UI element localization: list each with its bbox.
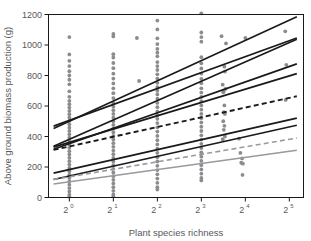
data-point: [135, 36, 139, 40]
data-point: [199, 103, 203, 107]
data-point: [199, 125, 203, 129]
data-point: [67, 159, 71, 163]
data-point: [199, 112, 203, 116]
data-point: [155, 64, 159, 68]
data-point: [155, 36, 159, 40]
data-point: [199, 55, 203, 59]
data-point: [67, 95, 71, 99]
data-point: [67, 89, 71, 93]
data-point: [238, 151, 242, 155]
data-point: [111, 91, 115, 95]
data-point: [111, 152, 115, 156]
x-axis-title: Plant species richness: [129, 227, 224, 238]
data-point: [199, 168, 203, 172]
data-point: [199, 179, 203, 183]
data-point: [67, 186, 71, 190]
data-point: [199, 159, 203, 163]
data-point: [111, 66, 115, 70]
data-point: [67, 78, 71, 82]
y-tick-label: 400: [27, 132, 42, 142]
data-point: [67, 109, 71, 113]
y-tick-label: 1200: [22, 10, 42, 20]
data-point: [111, 182, 115, 186]
x-tick-label: 2: [283, 205, 288, 215]
data-point: [284, 63, 288, 67]
data-point: [111, 178, 115, 182]
x-tick-label: 2: [151, 205, 156, 215]
data-point: [111, 189, 115, 193]
data-point: [221, 137, 225, 141]
data-point: [221, 83, 225, 87]
data-point: [199, 91, 203, 95]
data-point: [67, 190, 71, 194]
data-point: [111, 185, 115, 189]
data-point: [111, 82, 115, 86]
data-point: [199, 133, 203, 137]
data-point: [111, 112, 115, 116]
data-point: [199, 40, 203, 44]
data-point: [67, 74, 71, 78]
data-point: [155, 93, 159, 97]
x-tick-label: 2: [239, 205, 244, 215]
data-point: [221, 119, 225, 123]
data-point: [111, 130, 115, 134]
data-point: [67, 112, 71, 116]
data-point: [155, 188, 159, 192]
data-point: [199, 67, 203, 71]
data-point: [111, 171, 115, 175]
data-point: [199, 35, 203, 39]
data-point: [111, 35, 115, 39]
y-tick-label: 200: [27, 162, 42, 172]
data-point: [111, 56, 115, 60]
data-point: [155, 72, 159, 76]
data-point: [67, 59, 71, 63]
data-point: [67, 183, 71, 187]
data-point: [283, 29, 287, 33]
y-tick-label: 600: [27, 101, 42, 111]
data-point: [241, 162, 245, 166]
chart-figure: 020040060080010001200 202122232425 Plant…: [0, 0, 311, 241]
data-point: [222, 124, 226, 128]
data-point: [155, 19, 159, 23]
data-point: [155, 47, 159, 51]
data-point: [155, 164, 159, 168]
data-point: [220, 34, 224, 38]
data-point: [137, 79, 141, 83]
data-point: [222, 128, 226, 132]
data-point: [111, 123, 115, 127]
data-point: [199, 86, 203, 90]
data-point: [67, 122, 71, 126]
data-point: [155, 130, 159, 134]
data-point: [111, 77, 115, 81]
data-point: [155, 121, 159, 125]
data-point: [155, 172, 159, 176]
x-tick-label: 2: [63, 205, 68, 215]
data-point: [155, 181, 159, 185]
x-tick-label: 2: [107, 205, 112, 215]
data-point: [199, 142, 203, 146]
data-point: [155, 51, 159, 55]
data-point: [111, 86, 115, 90]
data-point: [199, 121, 203, 125]
data-point: [111, 145, 115, 149]
data-point: [155, 54, 159, 58]
data-point: [155, 151, 159, 155]
data-point: [67, 149, 71, 153]
data-point: [155, 117, 159, 121]
data-point: [155, 28, 159, 32]
data-point: [155, 177, 159, 181]
data-point: [67, 132, 71, 136]
data-point: [222, 103, 226, 107]
data-point: [199, 108, 203, 112]
data-point: [67, 35, 71, 39]
y-tick-label: 1000: [22, 40, 42, 50]
data-point: [67, 156, 71, 160]
y-tick-label: 800: [27, 71, 42, 81]
data-point: [67, 163, 71, 167]
data-point: [67, 126, 71, 130]
data-point: [111, 108, 115, 112]
data-point: [67, 99, 71, 103]
data-point: [111, 52, 115, 56]
data-point: [111, 149, 115, 153]
y-axis-title: Above ground biomass production (g): [2, 27, 13, 185]
